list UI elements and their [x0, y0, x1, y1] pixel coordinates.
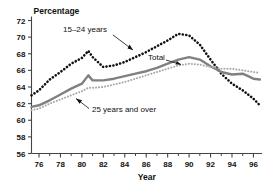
- y-tick-label: 62: [17, 100, 26, 109]
- x-tick-label: 86: [142, 160, 151, 169]
- x-tick-label: 94: [228, 160, 237, 169]
- y-tick-label: 56: [17, 150, 26, 159]
- x-tick-label: 78: [56, 160, 65, 169]
- x-tick-label: 90: [185, 160, 194, 169]
- line-chart: 5658606264666870727678808284868890929496…: [0, 0, 269, 188]
- annotation-15-24-years: 15–24 years: [63, 25, 107, 34]
- x-tick-label: 92: [206, 160, 215, 169]
- series-line-total: [32, 57, 260, 107]
- chart-container: 5658606264666870727678808284868890929496…: [0, 0, 269, 188]
- annotation-25-years-and-over: 25 years and over: [92, 105, 156, 114]
- y-axis-title: Percentage: [34, 6, 80, 16]
- y-tick-label: 66: [17, 66, 26, 75]
- x-tick-label: 84: [120, 160, 129, 169]
- y-tick-label: 58: [17, 133, 26, 142]
- x-tick-label: 76: [35, 160, 44, 169]
- arrowhead-15-24-years: [128, 45, 134, 50]
- x-tick-label: 80: [77, 160, 86, 169]
- y-tick-label: 64: [17, 83, 26, 92]
- x-axis-title: Year: [138, 172, 157, 182]
- arrowhead-25-years-and-over: [76, 99, 82, 104]
- y-tick-label: 68: [17, 50, 26, 59]
- y-tick-label: 72: [17, 17, 26, 26]
- annotation-total: Total: [148, 53, 165, 62]
- x-tick-label: 96: [249, 160, 258, 169]
- x-tick-label: 88: [163, 160, 172, 169]
- x-tick-label: 82: [99, 160, 108, 169]
- y-tick-label: 60: [17, 116, 26, 125]
- series-line-15-24-years: [32, 34, 260, 105]
- y-tick-label: 70: [17, 33, 26, 42]
